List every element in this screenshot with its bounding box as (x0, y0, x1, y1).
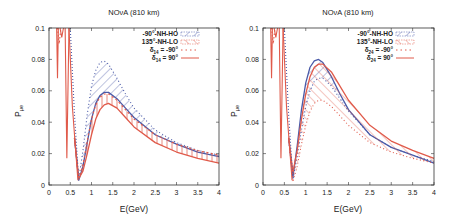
y-tick-label: 0.1 (35, 25, 45, 32)
x-tick-label: 1.5 (322, 189, 332, 196)
legend-label-nh-lo: 135°-NH-LO (142, 38, 178, 45)
y-tick-label: 0.08 (245, 56, 259, 63)
oscillation-line (279, 28, 283, 158)
oscillation-line (69, 28, 78, 180)
x-tick-label: 3.5 (408, 189, 418, 196)
legend-swatch-red-band (396, 40, 414, 44)
band-edge-line (289, 100, 434, 182)
x-tick-label: 1 (90, 189, 94, 196)
legend: -90°-NH-HO 135°-NH-LO δ14 = -90° δ14 = 9… (142, 30, 199, 63)
y-axis-label: Pμe (229, 105, 240, 117)
y-tick-label: 0.02 (245, 150, 259, 157)
oscillation-line (60, 28, 63, 37)
axis-ticks: 00.511.522.533.5400.020.040.060.080.1 (31, 25, 221, 197)
x-tick-label: 3 (389, 189, 393, 196)
plot-right: NOνA (810 km) 00.511.522.533.5400.020.04… (229, 8, 436, 214)
band-layer (289, 59, 434, 181)
legend-label-nh-ho: -90°-NH-HO (143, 30, 178, 37)
x-axis-label: E(GeV) (120, 204, 149, 214)
oscillation-line (274, 28, 277, 37)
band-layer (75, 61, 220, 180)
x-tick-label: 0 (47, 189, 51, 196)
legend-swatch-blue-band (396, 32, 414, 36)
x-tick-label: 3 (175, 189, 179, 196)
x-tick-label: 0.5 (280, 189, 290, 196)
low-energy-oscillations (57, 28, 79, 180)
y-tick-label: 0 (255, 182, 259, 189)
x-tick-label: 2 (347, 189, 351, 196)
legend: -90°-NH-HO 135°-NH-LO δ24 = -90° δ24 = 9… (357, 30, 414, 63)
x-tick-label: 3.5 (193, 189, 203, 196)
y-tick-label: 0.02 (31, 150, 45, 157)
x-tick-label: 4 (217, 189, 221, 196)
x-tick-label: 2 (132, 189, 136, 196)
legend-swatch-blue-band (181, 32, 199, 36)
legend-label-delta-pos: δ24 = 90° (367, 54, 394, 63)
svg-text:Pμe: Pμe (13, 105, 24, 117)
legend-label-nh-ho: -90°-NH-HO (358, 30, 393, 37)
x-tick-label: 2.5 (150, 189, 160, 196)
y-tick-label: 0 (41, 182, 45, 189)
legend-label-delta-pos: δ14 = 90° (152, 54, 179, 63)
y-axis-label: Pμe (13, 105, 24, 117)
plot-title: NOνA (810 km) (322, 8, 374, 17)
low-energy-oscillations (271, 28, 293, 180)
oscillation-line (284, 28, 293, 180)
y-tick-label: 0.04 (245, 119, 259, 126)
y-tick-label: 0.06 (245, 87, 259, 94)
y-tick-label: 0.1 (249, 25, 259, 32)
oscillation-line (65, 28, 69, 158)
svg-text:Pμe: Pμe (229, 105, 240, 117)
legend-label-nh-lo: 135°-NH-LO (357, 38, 393, 45)
y-tick-label: 0.04 (31, 119, 45, 126)
oscillation-line (283, 28, 292, 180)
legend-swatch-red-band (181, 40, 199, 44)
x-tick-label: 2.5 (365, 189, 375, 196)
x-tick-label: 1 (304, 189, 308, 196)
x-tick-label: 0.5 (65, 189, 75, 196)
figure: NOνA (810 km) 00.511.522.533.5400.020.04… (0, 0, 450, 224)
x-tick-label: 1.5 (108, 189, 118, 196)
band-fill (289, 64, 434, 182)
plot-title: NOνA (810 km) (108, 8, 160, 17)
x-axis-label: E(GeV) (334, 204, 363, 214)
plot-left: NOνA (810 km) 00.511.522.533.5400.020.04… (13, 8, 221, 214)
x-tick-label: 4 (432, 189, 436, 196)
y-tick-label: 0.08 (31, 56, 45, 63)
oscillation-line (70, 28, 79, 180)
x-tick-label: 0 (261, 189, 265, 196)
y-tick-label: 0.06 (31, 87, 45, 94)
